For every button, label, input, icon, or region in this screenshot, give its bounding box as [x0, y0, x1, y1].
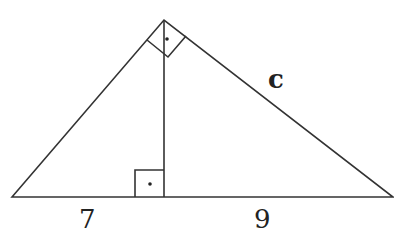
label-c: c [268, 66, 284, 92]
triangle [12, 20, 393, 197]
label-9: 9 [254, 206, 271, 232]
right-angle-dot-apex [165, 37, 169, 41]
triangle-diagram [0, 0, 394, 241]
label-7: 7 [79, 206, 96, 232]
right-angle-dot-foot [148, 182, 152, 186]
